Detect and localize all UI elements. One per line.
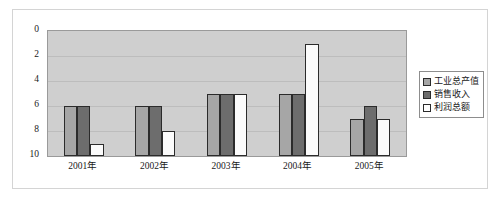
x-axis-tick-label: 2001年	[68, 162, 97, 172]
chart-legend: 工业总产值销售收入利润总额	[419, 71, 484, 118]
bar	[64, 106, 77, 156]
bar	[90, 144, 103, 157]
legend-swatch-icon	[423, 104, 431, 112]
bar-group	[279, 31, 319, 156]
bar	[377, 119, 390, 157]
y-axis-tick-label: 4	[34, 75, 39, 85]
legend-item: 工业总产值	[423, 75, 479, 88]
legend-item: 销售收入	[423, 88, 479, 101]
bar-group	[64, 31, 104, 156]
bar	[364, 106, 377, 156]
bar	[149, 106, 162, 156]
bar	[220, 94, 233, 157]
y-axis-tick-label: 6	[34, 100, 39, 110]
x-axis-tick-label: 2004年	[283, 162, 312, 172]
bar-group	[350, 31, 390, 156]
bar	[162, 131, 175, 156]
legend-item-label: 工业总产值	[434, 77, 479, 86]
bar	[305, 44, 318, 157]
y-axis-tick-label: 10	[30, 150, 40, 160]
y-axis-tick-label: 2	[34, 50, 39, 60]
legend-item-label: 利润总额	[434, 103, 470, 112]
bar	[279, 94, 292, 157]
bar	[135, 106, 148, 156]
x-axis: 2001年2002年2003年2004年2005年	[47, 162, 407, 178]
x-axis-tick-label: 2003年	[212, 162, 241, 172]
legend-swatch-icon	[423, 78, 431, 86]
bar-group	[135, 31, 175, 156]
y-axis: 0246810	[13, 30, 43, 157]
bar	[77, 106, 90, 156]
bar	[350, 119, 363, 157]
chart-frame: 0246810 2001年2002年2003年2004年2005年 工业总产值销…	[12, 9, 488, 189]
legend-swatch-icon	[423, 91, 431, 99]
x-axis-tick-label: 2005年	[355, 162, 384, 172]
y-axis-tick-label: 0	[34, 25, 39, 35]
legend-item-label: 销售收入	[434, 90, 470, 99]
plot-area	[47, 30, 407, 157]
bar	[234, 94, 247, 157]
bar	[207, 94, 220, 157]
legend-item: 利润总额	[423, 101, 479, 114]
x-axis-tick-label: 2002年	[140, 162, 169, 172]
bar	[292, 94, 305, 157]
bar-group	[207, 31, 247, 156]
y-axis-tick-label: 8	[34, 125, 39, 135]
